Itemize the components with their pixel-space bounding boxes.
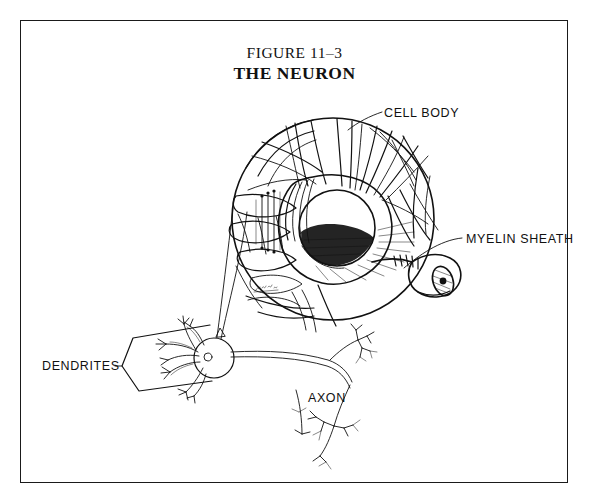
soma (194, 338, 234, 378)
cell-body-magnification (229, 118, 461, 332)
magnification-cone (216, 208, 247, 339)
dendrite-tree (156, 316, 206, 403)
label-dendrites: DENDRITES (42, 359, 120, 373)
dendrite-web-right (382, 168, 438, 246)
neuron-illustration (0, 0, 589, 503)
figure-root: FIGURE 11–3 THE NEURON (0, 0, 589, 503)
label-cell-body: CELL BODY (384, 106, 459, 120)
label-myelin-sheath: MYELIN SHEATH (466, 232, 574, 246)
dendrite-web-upper (246, 119, 428, 200)
soma-nucleus (204, 353, 212, 361)
nucleus (299, 190, 375, 268)
axon-terminal-upper (330, 324, 377, 363)
label-axon: AXON (308, 391, 346, 405)
cytoplasm-lobes (229, 195, 302, 307)
